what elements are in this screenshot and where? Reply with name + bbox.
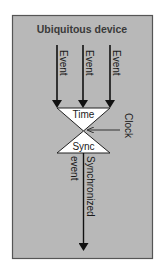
event-label-2: Event	[84, 50, 95, 76]
synchronized-label: Synchronized	[85, 156, 96, 217]
event-label-3: Event	[111, 50, 122, 76]
clock-label: Clock	[123, 113, 134, 139]
event-output-label: event	[69, 156, 80, 181]
sync-label: Sync	[72, 141, 94, 152]
time-label: Time	[73, 109, 95, 120]
diagram-canvas: Ubiquitous device Event Event Event Time…	[0, 0, 163, 275]
device-title: Ubiquitous device	[37, 23, 128, 35]
event-label-1: Event	[58, 50, 69, 76]
